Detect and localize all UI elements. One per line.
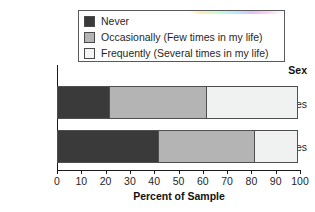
x-tick-label-0: 0	[54, 175, 60, 187]
x-tick-30	[130, 170, 131, 174]
x-tick-label-50: 50	[173, 175, 185, 187]
x-tick-label-40: 40	[148, 175, 160, 187]
legend-item-never: Never	[84, 14, 280, 29]
x-tick-90	[276, 170, 277, 174]
legend-swatch-never	[84, 16, 95, 27]
legend-swatch-frequently	[84, 48, 95, 59]
x-tick-label-20: 20	[100, 175, 112, 187]
x-tick-50	[179, 170, 180, 174]
x-tick-label-80: 80	[246, 175, 258, 187]
x-axis-title: Percent of Sample	[57, 190, 301, 202]
bar-males	[57, 86, 297, 119]
legend-label-frequently: Frequently (Several times in my life)	[101, 48, 268, 59]
plot-area	[57, 65, 300, 170]
x-tick-60	[203, 170, 204, 174]
x-tick-label-10: 10	[75, 175, 87, 187]
legend-label-never: Never	[101, 16, 129, 27]
x-tick-label-30: 30	[124, 175, 136, 187]
bar-segment-males-0	[57, 86, 110, 119]
x-tick-0	[57, 170, 58, 174]
bar-females	[57, 130, 297, 163]
bar-segment-females-1	[158, 130, 255, 163]
bar-segment-females-2	[254, 130, 298, 163]
legend-swatch-occasionally	[84, 32, 95, 43]
x-tick-80	[251, 170, 252, 174]
bar-segment-females-0	[57, 130, 159, 163]
legend-item-frequently: Frequently (Several times in my life)	[84, 46, 280, 61]
x-tick-label-60: 60	[197, 175, 209, 187]
legend-label-occasionally: Occasionally (Few times in my life)	[101, 32, 263, 43]
x-tick-70	[227, 170, 228, 174]
x-tick-100	[300, 170, 301, 174]
x-tick-label-90: 90	[270, 175, 282, 187]
x-tick-40	[154, 170, 155, 174]
chart-legend: Never Occasionally (Few times in my life…	[78, 10, 285, 62]
x-tick-label-100: 100	[291, 175, 309, 187]
bar-segment-males-2	[206, 86, 298, 119]
bar-segment-males-1	[109, 86, 206, 119]
stacked-bar-chart: Never Occasionally (Few times in my life…	[0, 0, 315, 212]
x-tick-10	[81, 170, 82, 174]
x-tick-20	[106, 170, 107, 174]
x-tick-label-70: 70	[221, 175, 233, 187]
legend-item-occasionally: Occasionally (Few times in my life)	[84, 30, 280, 45]
